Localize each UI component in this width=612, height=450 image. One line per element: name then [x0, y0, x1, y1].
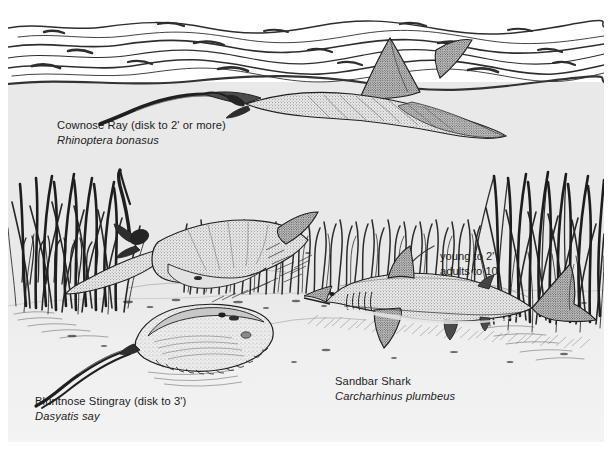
sandbar-shark-eye [329, 292, 334, 296]
bluntnose-stingray-eye [218, 313, 225, 318]
label-cownose-ray-scientific: Rhinoptera bonasus [57, 133, 226, 148]
annotation-shark-size: young to 2' adults to 10' [440, 249, 500, 279]
illustration-panel: Cownose Ray (disk to 2' or more) Rhinopt… [8, 6, 604, 442]
label-sandbar-shark-common: Sandbar Shark [335, 374, 455, 389]
annotation-shark-size-young: young to 2' [440, 249, 500, 264]
label-cownose-ray: Cownose Ray (disk to 2' or more) Rhinopt… [57, 118, 226, 148]
label-bluntnose-stingray: Bluntnose Stingray (disk to 3') Dasyatis… [35, 394, 186, 424]
annotation-shark-size-adult: adults to 10' [440, 264, 500, 279]
label-bluntnose-stingray-common: Bluntnose Stingray (disk to 3') [35, 394, 186, 409]
label-sandbar-shark-scientific: Carcharhinus plumbeus [335, 389, 455, 404]
label-cownose-ray-common: Cownose Ray (disk to 2' or more) [57, 118, 226, 133]
illustration-canvas: Cownose Ray (disk to 2' or more) Rhinopt… [0, 0, 612, 450]
label-bluntnose-stingray-scientific: Dasyatis say [35, 409, 186, 424]
habitat-scene-artwork [8, 6, 604, 442]
label-sandbar-shark: Sandbar Shark Carcharhinus plumbeus [335, 374, 455, 404]
